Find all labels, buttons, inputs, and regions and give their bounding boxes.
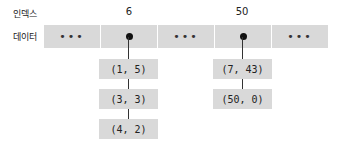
chain-node: (4, 2): [99, 119, 158, 139]
array-cell-ellipsis: •••: [272, 25, 328, 48]
chain-node: (3, 3): [99, 89, 158, 109]
chain-node: (7, 43): [213, 59, 272, 79]
pointer-dot-icon: [240, 33, 247, 40]
index-label-6: 6: [109, 6, 149, 17]
data-row-label: 데이터: [13, 30, 37, 43]
pointer-dot-icon: [126, 33, 133, 40]
array-cell-ellipsis: •••: [158, 25, 214, 48]
index-label-50: 50: [222, 6, 262, 17]
array-cell-ellipsis: •••: [44, 25, 100, 48]
array-cell-6: [101, 25, 157, 48]
index-row-label: 인덱스: [13, 7, 37, 20]
hash-array: ••• ••• •••: [44, 25, 329, 48]
array-cell-50: [215, 25, 271, 48]
chain-node: (50, 0): [213, 89, 272, 109]
chain-node: (1, 5): [99, 59, 158, 79]
